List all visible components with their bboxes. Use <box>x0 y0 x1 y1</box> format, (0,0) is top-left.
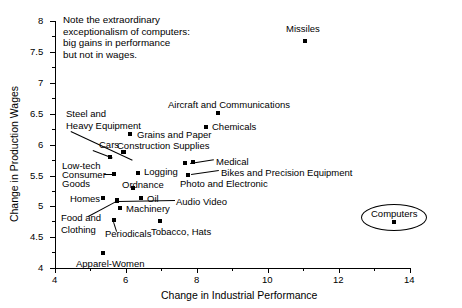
y-tick-label: 7 <box>38 78 43 88</box>
annotation-note: Note the extraordinary exceptionalism of… <box>63 14 223 60</box>
y-tick-7 <box>50 83 55 84</box>
data-point-tobacco <box>158 219 162 223</box>
x-tick-label: 12 <box>333 275 344 285</box>
point-label-food-line1: Food and <box>61 212 101 223</box>
point-label-photo: Photo and Electronic <box>180 178 268 189</box>
data-point-logging <box>136 171 140 175</box>
y-minor-tick <box>52 67 55 68</box>
y-tick-label: 4 <box>38 263 43 273</box>
y-tick-7.5 <box>50 52 55 53</box>
point-label-ordnance: Ordnance <box>122 179 164 190</box>
y-tick-label: 5.5 <box>30 171 43 181</box>
point-label-lowtech-line3: Goods <box>62 178 90 189</box>
x-tick-label: 6 <box>123 275 128 285</box>
y-minor-tick <box>52 221 55 222</box>
point-label-computers: Computers <box>371 208 417 219</box>
point-label-construction: Construction Supplies <box>117 140 209 151</box>
x-minor-tick <box>374 268 375 271</box>
x-tick-8 <box>197 268 198 273</box>
data-point-grains <box>128 132 132 136</box>
y-minor-tick <box>52 160 55 161</box>
y-tick-label: 8 <box>38 16 43 26</box>
y-minor-tick <box>52 191 55 192</box>
point-label-tobacco: Tobacco, Hats <box>151 226 211 237</box>
data-point-homes <box>101 196 105 200</box>
point-label-logging: Logging <box>144 166 178 177</box>
y-minor-tick <box>52 36 55 37</box>
scatter-plot-figure: 8 7.5 7 6.5 6 5.5 5 4.5 4 4 6 8 10 12 14… <box>0 0 462 308</box>
y-minor-tick <box>52 129 55 130</box>
y-tick-label: 5 <box>38 201 43 211</box>
x-tick-14 <box>410 268 411 273</box>
point-label-cars: Cars <box>99 139 119 150</box>
note-line-2: exceptionalism of computers: <box>63 26 223 38</box>
data-point-apparel <box>101 251 105 255</box>
x-tick-label: 10 <box>262 275 273 285</box>
y-tick-label: 6.5 <box>30 109 43 119</box>
point-label-steel-line1: Steel and <box>66 108 106 119</box>
y-axis-line <box>55 21 56 269</box>
y-tick-label: 7.5 <box>30 47 43 57</box>
x-minor-tick <box>232 268 233 271</box>
y-tick-5.5 <box>50 176 55 177</box>
point-label-medical: Medical <box>216 156 249 167</box>
x-axis-title: Change in Industrial Performance <box>161 289 317 301</box>
x-tick-label: 14 <box>404 275 415 285</box>
x-tick-label: 8 <box>194 275 199 285</box>
x-tick-label: 4 <box>52 275 57 285</box>
note-line-3: big gains in performance <box>63 37 223 49</box>
x-tick-12 <box>339 268 340 273</box>
y-tick-label: 6 <box>38 140 43 150</box>
x-minor-tick <box>161 268 162 271</box>
data-point-bikes <box>186 173 190 177</box>
y-tick-6 <box>50 145 55 146</box>
point-label-food-line2: Clothing <box>61 224 96 235</box>
point-label-steel-line2: Heavy Equipment <box>66 120 141 131</box>
y-minor-tick <box>52 252 55 253</box>
y-tick-5 <box>50 206 55 207</box>
x-tick-4 <box>55 268 56 273</box>
data-point-aircraft <box>216 111 220 115</box>
point-label-aircraft: Aircraft and Communications <box>168 99 290 110</box>
y-tick-6.5 <box>50 114 55 115</box>
y-tick-label: 4.5 <box>30 232 43 242</box>
note-line-1: Note the extraordinary <box>63 14 223 26</box>
point-label-bikes: Bikes and Precision Equipment <box>221 167 353 178</box>
point-label-homes: Homes <box>70 193 100 204</box>
data-point-missiles <box>303 39 307 43</box>
data-point-oil <box>139 196 143 200</box>
x-minor-tick <box>303 268 304 271</box>
point-label-missiles: Missiles <box>286 23 320 34</box>
x-tick-10 <box>268 268 269 273</box>
y-tick-4.5 <box>50 237 55 238</box>
y-minor-tick <box>52 98 55 99</box>
point-label-apparel: Apparel-Women <box>76 258 144 269</box>
point-label-chemicals: Chemicals <box>212 121 256 132</box>
note-line-4: but not in wages. <box>63 49 223 61</box>
point-label-audio: Audio Video <box>176 196 227 207</box>
y-tick-8 <box>50 21 55 22</box>
data-point-machinery <box>118 206 122 210</box>
data-point-medical-a <box>183 161 187 165</box>
y-axis-title: Change in Production Wages <box>8 86 20 222</box>
point-label-grains: Grains and Paper <box>137 129 211 140</box>
leader-line-bikes <box>191 170 219 175</box>
point-label-machinery: Machinery <box>126 203 170 214</box>
point-label-periodicals: Periodicals <box>105 228 151 239</box>
